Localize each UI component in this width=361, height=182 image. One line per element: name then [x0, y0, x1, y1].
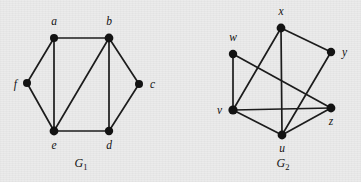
vertex-b [105, 34, 114, 43]
graph-caption-g2: G2 [277, 156, 290, 172]
vertex-a [50, 34, 58, 42]
vertex-w [229, 50, 237, 58]
vertex-label-a: a [51, 15, 57, 27]
caption-base: G [75, 156, 84, 170]
graph-g1: abcdefG1 [14, 15, 155, 172]
vertex-label-b: b [106, 15, 112, 27]
vertex-v [228, 105, 237, 114]
edge-v-z [233, 108, 331, 110]
graph-figure-svg: abcdefG1xwyvzuG2 [0, 0, 361, 182]
vertex-z [327, 104, 336, 113]
vertex-f [23, 79, 31, 87]
vertex-label-w: w [229, 31, 237, 43]
edge-x-y [281, 28, 331, 52]
caption-subscript: 1 [83, 162, 87, 172]
vertex-x [277, 24, 286, 33]
edge-y-u [282, 52, 331, 135]
vertex-label-f: f [14, 78, 19, 91]
graph-g2: xwyvzuG2 [217, 5, 348, 172]
edge-b-c [109, 38, 139, 84]
edge-x-v [233, 28, 281, 110]
graph-caption-g1: G1 [75, 156, 88, 172]
vertex-label-x: x [277, 5, 284, 17]
vertex-label-z: z [328, 115, 334, 127]
edge-group [27, 38, 139, 131]
vertex-label-y: y [341, 46, 348, 59]
vertex-label-c: c [150, 78, 155, 90]
vertex-y [327, 48, 335, 56]
edge-e-f [27, 83, 54, 131]
edge-v-u [233, 110, 282, 135]
vertex-label-v: v [217, 104, 223, 116]
caption-base: G [277, 156, 286, 170]
graphs-layer: abcdefG1xwyvzuG2 [14, 5, 348, 172]
vertex-label-e: e [51, 139, 56, 151]
vertex-c [135, 80, 143, 88]
edge-b-e [54, 38, 109, 131]
vertex-label-u: u [279, 142, 285, 154]
edge-group [233, 28, 331, 135]
edge-c-d [109, 84, 139, 131]
caption-subscript: 2 [285, 162, 289, 172]
vertex-u [278, 131, 287, 140]
edge-a-f [27, 38, 54, 83]
vertex-e [50, 127, 59, 136]
vertex-label-d: d [106, 139, 112, 151]
vertex-d [105, 127, 113, 135]
figure-canvas: abcdefG1xwyvzuG2 [0, 0, 361, 182]
